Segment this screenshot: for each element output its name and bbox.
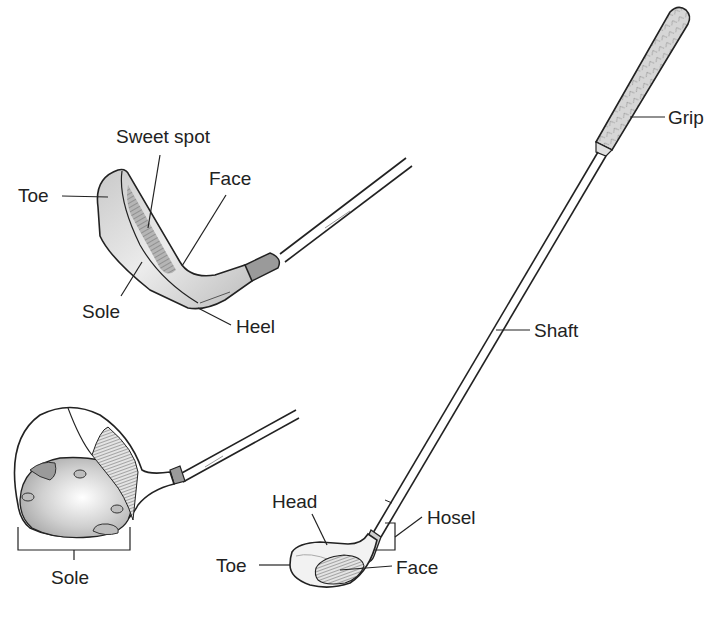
label-iron-face: Face [209,169,251,188]
label-sweet-spot: Sweet spot [116,127,210,146]
label-grip: Grip [668,108,704,127]
label-iron-heel: Heel [236,317,275,336]
iron-club [97,158,412,309]
label-hosel: Hosel [427,508,476,527]
label-full-face: Face [396,558,438,577]
label-iron-sole: Sole [82,302,120,321]
label-head: Head [272,492,317,511]
full-club-leaders [259,117,665,570]
full-club [290,7,690,587]
label-shaft: Shaft [534,321,578,340]
label-wood-sole: Sole [51,568,89,587]
golf-club-diagram: Sweet spot Toe Face Sole Heel Sole Grip … [0,0,726,617]
label-full-toe: Toe [216,556,247,575]
label-iron-toe: Toe [18,186,49,205]
wood-sole-view [14,408,299,561]
